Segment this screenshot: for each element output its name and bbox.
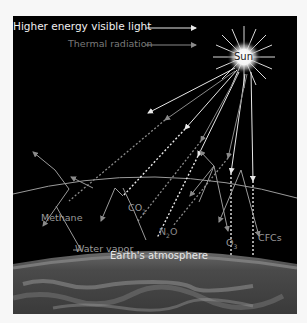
greenhouse-diagram: Higher energy visible light Thermal radi… <box>13 16 297 314</box>
legend-thermal-label: Thermal radiation <box>68 38 153 49</box>
reflected-heat <box>33 151 259 250</box>
atmosphere-label: Earth's atmosphere <box>110 250 208 261</box>
diagram-graphics <box>13 16 297 314</box>
sun-label: Sun <box>234 51 253 62</box>
legend-visible-light-label: Higher energy visible light <box>13 20 151 32</box>
methane-label: Methane <box>41 212 82 223</box>
n2o-label: N2O <box>159 226 177 239</box>
cfcs-label: CFCs <box>258 232 282 243</box>
atmosphere-boundary <box>13 177 297 198</box>
co2-label: CO2 <box>128 202 146 215</box>
o3-label: O3 <box>226 237 237 250</box>
incoming-visible-light <box>148 68 253 181</box>
